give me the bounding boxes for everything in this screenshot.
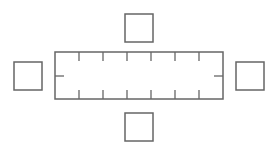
chairs-group xyxy=(14,14,264,141)
table-seating-diagram xyxy=(0,0,274,150)
table-group xyxy=(55,52,223,99)
chair-bottom xyxy=(125,113,153,141)
table-outline xyxy=(55,52,223,99)
chair-top xyxy=(125,14,153,42)
chair-left xyxy=(14,62,42,90)
chair-right xyxy=(236,62,264,90)
